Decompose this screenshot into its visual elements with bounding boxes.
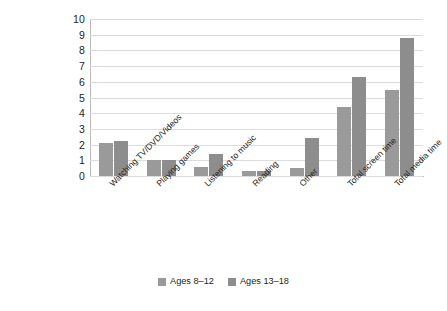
bar [337,107,351,176]
y-axis-tick-label: 10 [63,14,85,25]
y-axis: 012345678910 [60,19,85,176]
y-axis-tick-label: 7 [63,61,85,72]
y-axis-tick-label: 4 [63,108,85,119]
y-axis-tick-label: 6 [63,77,85,88]
bar [400,38,414,176]
bar [194,167,208,176]
chart-legend: Ages 8–12Ages 13–18 [0,277,447,286]
legend-swatch-icon [228,278,236,286]
y-axis-tick-label: 5 [63,93,85,104]
y-axis-tick-label: 1 [63,155,85,166]
legend-item: Ages 8–12 [158,277,214,286]
bar [147,160,161,176]
bar [290,168,304,176]
legend-label: Ages 13–18 [240,277,289,286]
legend-swatch-icon [158,278,166,286]
y-axis-tick-label: 3 [63,124,85,135]
bar-group [280,19,328,176]
y-axis-tick-label: 2 [63,140,85,151]
bar [99,143,113,176]
y-axis-tick-label: 8 [63,45,85,56]
bar-group [90,19,138,176]
bar [385,90,399,176]
y-axis-tick-label: 0 [63,171,85,182]
y-axis-tick-label: 9 [63,30,85,41]
bar-group [328,19,376,176]
legend-label: Ages 8–12 [170,277,214,286]
bar [242,171,256,176]
legend-item: Ages 13–18 [228,277,289,286]
bar-chart: 012345678910 Ages 8–12Ages 13–18 Watchin… [0,0,447,311]
